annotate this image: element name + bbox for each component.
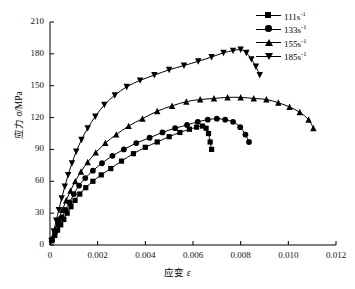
data-point-marker [167, 134, 172, 139]
series-133s-1 [49, 116, 252, 245]
data-point-marker [297, 109, 303, 115]
data-point-marker [133, 140, 139, 146]
x-tick-label: 0 [30, 251, 70, 260]
data-point-marker [90, 179, 95, 184]
data-point-marker [131, 151, 136, 156]
x-tick-label: 0.002 [78, 251, 118, 260]
y-tick-label: 180 [16, 49, 44, 58]
legend-marker-circle-icon [256, 24, 281, 35]
data-point-marker [108, 166, 113, 171]
data-point-marker [257, 72, 263, 78]
data-point-marker [78, 137, 84, 143]
data-point-marker [69, 160, 75, 166]
data-point-marker [72, 178, 78, 184]
data-point-marker [194, 125, 199, 130]
data-point-marker [172, 125, 178, 131]
data-point-marker [205, 117, 211, 123]
legend-label: 185s-1 [284, 50, 306, 62]
data-point-marker [125, 123, 131, 129]
data-point-marker [310, 125, 316, 131]
data-point-marker [99, 160, 105, 166]
data-point-marker [77, 191, 82, 196]
y-tick-label: 210 [16, 17, 44, 26]
data-point-marker [139, 115, 145, 121]
data-point-marker [73, 149, 79, 155]
data-point-marker [154, 108, 160, 114]
data-point-marker [62, 184, 68, 190]
data-point-marker [99, 172, 104, 177]
data-point-marker [195, 119, 201, 125]
legend-label: 111s-1 [284, 10, 306, 22]
y-tick-label: 30 [16, 208, 44, 217]
legend-label: 155s-1 [284, 37, 306, 49]
chart-figure: 0306090120150180210 00.0020.0040.0060.00… [0, 0, 355, 289]
data-point-marker [155, 139, 160, 144]
legend-item-155s-1[interactable]: 155s-1 [256, 36, 306, 50]
data-point-marker [113, 131, 119, 137]
legend-marker-triangle-up-icon [256, 37, 281, 48]
y-tick-label: 60 [16, 176, 44, 185]
data-point-marker [84, 125, 90, 131]
x-tick-label: 0.004 [125, 251, 165, 260]
legend: 111s-1133s-1155s-1185s-1 [256, 9, 306, 63]
legend-item-185s-1[interactable]: 185s-1 [256, 50, 306, 64]
data-point-marker [208, 54, 214, 60]
data-point-marker [82, 175, 88, 181]
data-point-marker [110, 153, 116, 159]
legend-label: 133s-1 [284, 23, 306, 35]
legend-marker-triangle-down-icon [256, 51, 281, 62]
data-point-marker [83, 185, 88, 190]
data-point-marker [214, 116, 220, 122]
series-line [50, 50, 260, 245]
data-point-marker [169, 102, 175, 108]
data-point-marker [90, 168, 96, 174]
data-point-marker [58, 195, 64, 201]
data-point-marker [286, 104, 292, 110]
x-axis-title: 应变 ε [0, 265, 355, 279]
data-point-marker [65, 172, 71, 178]
x-tick-label: 0.012 [316, 251, 355, 260]
data-point-marker [151, 72, 157, 78]
data-point-marker [177, 130, 182, 135]
data-point-marker [119, 159, 124, 164]
data-point-marker [246, 139, 252, 145]
data-point-marker [253, 64, 259, 70]
x-tick-label: 0.008 [221, 251, 261, 260]
data-point-marker [147, 135, 153, 141]
x-tick-label: 0.006 [173, 251, 213, 260]
x-tick-label: 0.010 [268, 251, 308, 260]
y-tick-label: 0 [16, 240, 44, 249]
data-point-marker [137, 77, 143, 83]
data-point-marker [206, 131, 211, 136]
data-point-marker [243, 132, 249, 138]
data-point-marker [220, 50, 226, 56]
series-155s-1 [49, 94, 317, 245]
y-axis-title: 应力 σ/MPa [11, 75, 25, 155]
data-point-marker [72, 198, 77, 203]
data-point-marker [222, 117, 228, 123]
data-point-marker [121, 147, 127, 153]
data-point-marker [208, 139, 213, 144]
series-185s-1 [48, 47, 263, 245]
data-point-marker [209, 147, 214, 152]
data-point-marker [124, 84, 130, 90]
legend-item-133s-1[interactable]: 133s-1 [256, 23, 306, 37]
series-line [50, 97, 313, 245]
legend-marker-square-icon [256, 10, 281, 21]
data-point-marker [204, 126, 209, 131]
series-line [50, 126, 212, 245]
data-point-marker [230, 119, 236, 125]
data-point-marker [160, 130, 166, 136]
data-point-marker [166, 67, 172, 73]
legend-item-111s-1[interactable]: 111s-1 [256, 9, 306, 23]
data-point-marker [78, 168, 84, 174]
data-point-marker [184, 122, 190, 128]
data-point-marker [143, 145, 148, 150]
data-point-marker [248, 56, 254, 62]
data-point-marker [237, 124, 243, 130]
data-point-marker [67, 187, 73, 193]
